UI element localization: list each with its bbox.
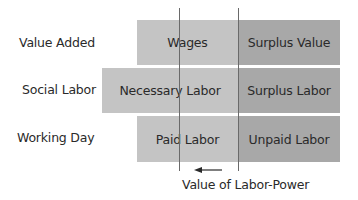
row-label-working-day: Working Day <box>17 130 94 145</box>
cell-wages-label: Wages <box>167 35 207 50</box>
value-of-labor-power-line <box>179 8 180 171</box>
caption-value-of-labor-power: Value of Labor-Power <box>182 177 309 192</box>
cell-surplus-labor: Surplus Labor <box>238 68 340 113</box>
cell-surplus-value-label: Surplus Value <box>248 35 331 50</box>
row-label-social-labor: Social Labor <box>22 82 96 97</box>
cell-necessary-labor: Necessary Labor <box>102 68 238 113</box>
cell-surplus-labor-label: Surplus Labor <box>247 83 331 98</box>
cell-unpaid-labor: Unpaid Labor <box>238 116 340 162</box>
cell-paid-labor: Paid Labor <box>137 116 238 162</box>
cell-paid-labor-label: Paid Labor <box>156 132 219 147</box>
cell-wages: Wages <box>137 20 238 65</box>
arrow-left-icon <box>194 165 224 175</box>
cell-unpaid-labor-label: Unpaid Labor <box>249 132 330 147</box>
cell-necessary-labor-label: Necessary Labor <box>119 83 220 98</box>
cell-surplus-value: Surplus Value <box>238 20 340 65</box>
row-label-value-added: Value Added <box>19 35 95 50</box>
boundary-line <box>238 8 239 171</box>
